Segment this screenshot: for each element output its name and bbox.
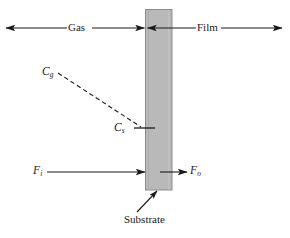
diagram-canvas: Gas Film Cg Cs Fi Fo Substrate [0,0,290,238]
surface-concentration-label: Cs [114,122,125,134]
flux-out-label: Fo [190,165,201,177]
fi-symbol: F [33,164,40,176]
diagram-vector-layer [0,0,290,238]
flux-in-label: Fi [33,165,42,177]
film-region-label: Film [197,22,218,33]
fi-subscript: i [40,169,42,178]
concentration-dashed-line [58,73,141,127]
fo-subscript: o [197,169,201,178]
cs-subscript: s [122,126,125,135]
cs-symbol: C [114,121,122,133]
gas-region-label: Gas [68,22,85,33]
substrate-label: Substrate [124,214,165,225]
substrate-leader-arrow [137,191,157,212]
fo-symbol: F [190,164,197,176]
cg-symbol: C [42,65,50,77]
cg-subscript: g [50,70,54,79]
gas-concentration-label: Cg [42,66,54,78]
